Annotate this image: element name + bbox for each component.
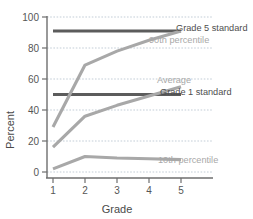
annotation-average: Average — [157, 75, 191, 85]
x-tick-label-2: 2 — [82, 185, 88, 196]
y-tick-label-60: 60 — [28, 74, 40, 85]
annotation-grade-1-standard: Grade 1 standard — [160, 87, 232, 97]
y-tick-label-80: 80 — [28, 43, 40, 54]
annotation-grade-5-standard: Grade 5 standard — [176, 23, 248, 33]
annotations: Grade 5 standard 90th percentile Average… — [149, 23, 248, 165]
annotation-90th-percentile: 90th percentile — [149, 35, 209, 45]
x-tick-label-3: 3 — [114, 185, 120, 196]
x-tick-label-1: 1 — [50, 185, 56, 196]
series-group — [53, 31, 181, 169]
annotation-10th-percentile: 10th percentile — [158, 155, 218, 165]
chart-container: 100 80 60 40 20 0 Percent 1 2 3 4 5 Grad… — [0, 0, 253, 219]
line-chart: 100 80 60 40 20 0 Percent 1 2 3 4 5 Grad… — [0, 0, 253, 219]
y-tick-label-40: 40 — [28, 105, 40, 116]
x-tick-label-5: 5 — [178, 185, 184, 196]
y-axis: 100 80 60 40 20 0 — [22, 12, 47, 178]
y-tick-label-20: 20 — [28, 136, 40, 147]
y-tick-label-100: 100 — [22, 12, 39, 23]
y-axis-title: Percent — [4, 111, 16, 149]
x-axis: 1 2 3 4 5 — [46, 178, 213, 196]
x-axis-title: Grade — [102, 203, 133, 215]
y-tick-label-0: 0 — [33, 167, 39, 178]
x-tick-label-4: 4 — [146, 185, 152, 196]
